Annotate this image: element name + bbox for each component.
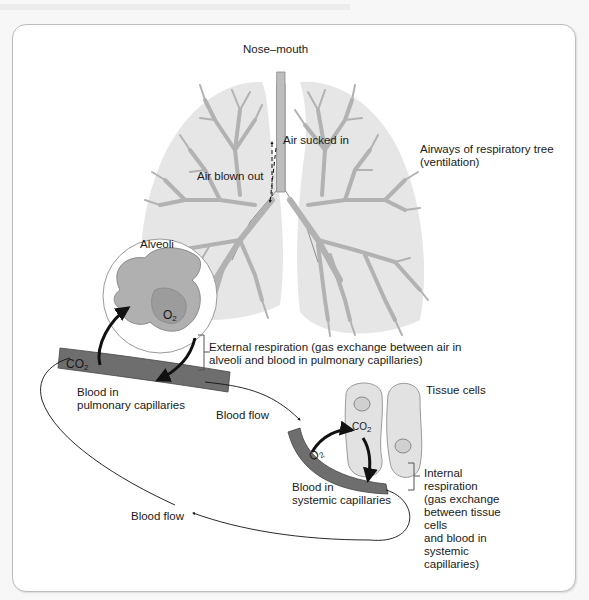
right-lung	[297, 82, 424, 334]
label-co2-tissue: CO2	[352, 420, 371, 436]
label-blood-flow-1: Blood flow	[216, 409, 269, 422]
label-air-sucked-in: Air sucked in	[283, 134, 349, 147]
label-blood-in-systemic: Blood in systemic capillaries	[292, 481, 391, 507]
label-o2-alveoli: O2	[163, 309, 177, 325]
label-airways: Airways of respiratory tree (ventilation…	[420, 143, 554, 169]
label-air-blown-out: Air blown out	[197, 170, 263, 183]
label-co2-pulmonary: CO2	[66, 358, 88, 374]
label-tissue-cells: Tissue cells	[426, 384, 486, 397]
label-alveoli: Alveoli	[140, 238, 174, 251]
label-external-respiration: External respiration (gas exchange betwe…	[209, 341, 462, 367]
label-internal-respiration: Internal respiration (gas exchange betwe…	[424, 467, 501, 571]
label-blood-flow-2: Blood flow	[131, 510, 184, 523]
alveoli-inset	[103, 239, 217, 353]
label-blood-in-pulmonary: Blood in pulmonary capillaries	[77, 386, 185, 412]
label-nose-mouth: Nose–mouth	[243, 43, 308, 56]
